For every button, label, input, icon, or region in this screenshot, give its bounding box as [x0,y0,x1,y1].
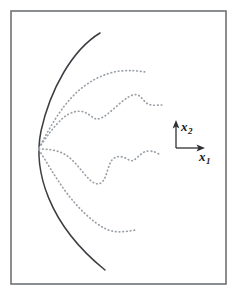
axis-label-x2-subscript: 2 [188,126,193,136]
figure-container: x2 x1 [0,0,237,299]
axis-label-x2-var: x [181,119,188,134]
axis-label-x1-subscript: 1 [206,156,211,166]
axis-label-x2: x2 [181,118,192,134]
axis-label-x1-var: x [199,149,206,164]
axis-label-x1: x1 [199,148,210,164]
